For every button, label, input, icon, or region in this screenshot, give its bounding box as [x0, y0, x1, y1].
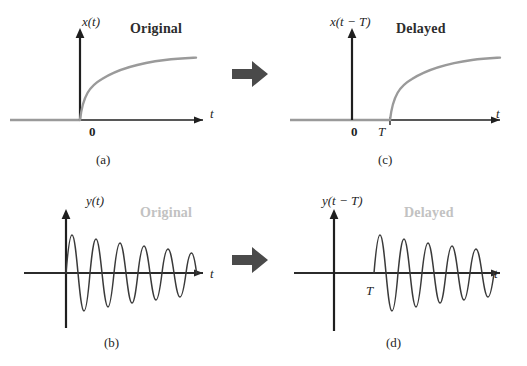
- panel-c-caption: (c): [378, 152, 392, 168]
- panel-b-caption: (b): [104, 335, 119, 351]
- panel-a-x-axis-label: t: [210, 106, 214, 122]
- panel-b-x-axis-label: t: [210, 266, 214, 282]
- panel-a-origin-label: 0: [89, 124, 96, 140]
- panel-a-caption: (a): [96, 152, 110, 168]
- y-axis-arrowhead: [62, 209, 71, 219]
- transform-arrow-top: [228, 56, 272, 92]
- panel-d-shift-label: T: [366, 283, 373, 299]
- panel-a-plot: [0, 0, 232, 183]
- panel-c-state-label: Delayed: [396, 21, 446, 37]
- panel-c-shift-label: T: [378, 124, 385, 140]
- panel-d-caption: (d): [386, 335, 401, 351]
- t-axis-arrowhead: [194, 270, 203, 277]
- panel-b-y-axis-label: y(t): [86, 193, 104, 209]
- panel-c-origin-label: 0: [351, 124, 358, 140]
- panel-d-y-axis-label: y(t − T): [322, 193, 363, 209]
- signal-delay-figure: x(t) t 0 Original (a) x(t − T) t 0 T Del…: [0, 0, 527, 366]
- panel-d-state-label: Delayed: [404, 205, 454, 221]
- panel-c-x-axis-label: t: [496, 106, 500, 122]
- t-axis-arrowhead: [194, 117, 203, 124]
- right-arrow-shape: [232, 247, 268, 273]
- panel-c-y-axis-label: x(t − T): [330, 14, 371, 30]
- transform-arrow-bottom: [228, 242, 272, 278]
- y-axis-arrowhead: [330, 209, 339, 219]
- panel-a: [0, 0, 232, 183]
- signal-curve-x-of-t-minus-T: [390, 58, 500, 120]
- right-arrow-shape: [232, 61, 268, 87]
- panel-d-x-axis-label: t: [494, 266, 498, 282]
- panel-b-state-label: Original: [140, 205, 192, 221]
- signal-curve-x-of-t: [80, 58, 196, 120]
- panel-a-state-label: Original: [130, 21, 182, 37]
- panel-a-y-axis-label: x(t): [82, 14, 100, 30]
- right-arrow-icon: [228, 56, 272, 92]
- right-arrow-icon: [228, 242, 272, 278]
